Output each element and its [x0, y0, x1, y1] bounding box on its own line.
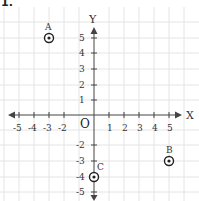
- y-axis-up-arrow-icon: [91, 27, 98, 34]
- svg-text:1: 1: [79, 95, 85, 105]
- svg-text:-3: -3: [43, 123, 52, 133]
- svg-text:5: 5: [79, 33, 85, 43]
- x-axis-label: X: [186, 109, 194, 122]
- y-axis-label: Y: [88, 13, 97, 26]
- svg-text:-4: -4: [76, 172, 85, 182]
- svg-text:4: 4: [152, 123, 158, 133]
- svg-text:2: 2: [122, 123, 128, 133]
- x-axis-right-arrow-icon: [175, 112, 182, 119]
- point-b-label: B: [166, 145, 173, 155]
- svg-text:-4: -4: [28, 123, 37, 133]
- svg-text:3: 3: [137, 123, 143, 133]
- point-a-label: A: [44, 22, 52, 32]
- svg-text:-5: -5: [76, 187, 85, 197]
- svg-text:5: 5: [167, 123, 173, 133]
- point-c: C: [90, 162, 105, 182]
- y-axis-down-arrow-icon: [91, 195, 98, 201]
- problem-number: 1.: [1, 0, 13, 9]
- point-c-label: C: [97, 162, 104, 172]
- x-tick-labels: -5 -4 -3 -2 1 2 3 4 5: [13, 123, 173, 133]
- svg-text:-5: -5: [13, 123, 22, 133]
- svg-text:-2: -2: [58, 123, 67, 133]
- origin-label: O: [80, 117, 90, 131]
- svg-text:-3: -3: [76, 156, 85, 166]
- svg-text:1: 1: [107, 123, 113, 133]
- svg-text:2: 2: [79, 80, 85, 90]
- coordinate-plane: 1. X Y O -5 -4 -3 -2 1 2 3 4 5: [0, 0, 199, 201]
- svg-text:3: 3: [79, 64, 85, 74]
- x-axis-left-arrow-icon: [8, 112, 15, 119]
- svg-text:4: 4: [79, 48, 85, 58]
- svg-text:-2: -2: [76, 140, 85, 150]
